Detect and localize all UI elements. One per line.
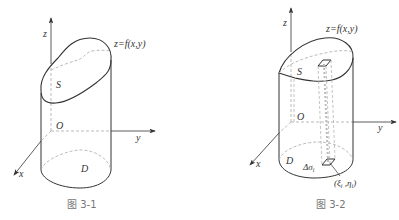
region-d-label: D — [285, 155, 294, 166]
column-center — [324, 64, 328, 162]
origin-label: O — [297, 111, 304, 122]
figure-caption: 图 3-1 — [67, 199, 97, 210]
surface-s-label: S — [297, 66, 302, 77]
x-axis-hidden — [279, 122, 291, 133]
area-element-subscript: i — [313, 167, 315, 173]
region-d-label: D — [80, 163, 89, 174]
diagram-canvas: z z=f(x,y) S O y x D 图 3-1 — [0, 0, 399, 220]
x-axis — [250, 133, 279, 165]
equation-label: z=f(x,y) — [113, 38, 146, 50]
area-element-symbol: Δσ — [302, 162, 313, 172]
surface-s-label: S — [56, 79, 61, 90]
z-axis-label: z — [282, 17, 287, 28]
y-axis-label: y — [377, 122, 383, 133]
y-axis-label: y — [135, 132, 141, 143]
point-label: (ξi ,ηi) — [334, 178, 356, 189]
figure-3-1: z z=f(x,y) S O y x D 图 3-1 — [14, 18, 155, 210]
figure-3-2: z z=f(x,y) S O y x D Δσi (ξi ,ηi) 图 3-2 — [250, 8, 396, 210]
region-d-front-arc — [41, 170, 111, 188]
point-pointer — [330, 163, 340, 176]
x-axis-label: x — [255, 158, 261, 169]
equation-label: z=f(x,y) — [325, 23, 358, 35]
x-axis-label: x — [18, 168, 24, 179]
surface-s-outline — [41, 38, 111, 103]
surface-s-outline — [279, 38, 353, 82]
z-axis-label: z — [42, 28, 47, 39]
x-axis-hidden — [41, 131, 51, 141]
surface-s-hidden-edge — [279, 51, 353, 73]
area-element-label: Δσi — [302, 162, 315, 173]
surface-s-hidden-edge — [51, 50, 111, 70]
origin-label: O — [56, 120, 63, 131]
region-d-back-arc — [41, 150, 111, 170]
figure-caption: 图 3-2 — [316, 199, 346, 210]
